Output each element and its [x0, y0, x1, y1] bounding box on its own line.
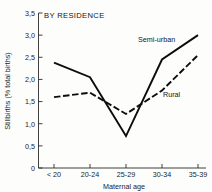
y-axis-title: Stillbirths (% total births): [3, 52, 12, 130]
y-tick-label-2-0: 2,0: [25, 75, 35, 84]
chart-figure: BY RESIDENCE 3,5 3,0 2,5 2,0 1,5 1,0 0,5…: [0, 0, 212, 192]
x-axis-title: Maternal age: [103, 182, 145, 191]
x-tick-label-30-34: 30-34: [153, 170, 171, 179]
y-tick-label-1-5: 1,5: [25, 97, 35, 106]
y-tick-label-0: 0: [31, 164, 35, 173]
series-line-semi-urban: [54, 35, 198, 136]
line-chart: BY RESIDENCE 3,5 3,0 2,5 2,0 1,5 1,0 0,5…: [0, 0, 212, 192]
x-tick-label-35-39: 35-39: [189, 170, 207, 179]
chart-title: BY RESIDENCE: [44, 11, 105, 20]
x-tick-label-25-29: 25-29: [117, 170, 135, 179]
x-tick-label-20-24: 20-24: [81, 170, 99, 179]
series-label-semi-urban: Semi-urban: [138, 35, 175, 44]
y-tick-label-3-0: 3,0: [25, 31, 35, 40]
x-tick-label-under-20: < 20: [47, 170, 61, 179]
series-label-rural: Rural: [163, 90, 181, 99]
y-tick-label-3-5: 3,5: [25, 9, 35, 18]
y-tick-marks: [39, 13, 43, 168]
x-tick-marks: [54, 164, 198, 168]
series-line-rural: [54, 55, 198, 114]
y-tick-label-1-0: 1,0: [25, 120, 35, 129]
y-tick-label-0-5: 0,5: [25, 142, 35, 151]
y-tick-label-2-5: 2,5: [25, 53, 35, 62]
